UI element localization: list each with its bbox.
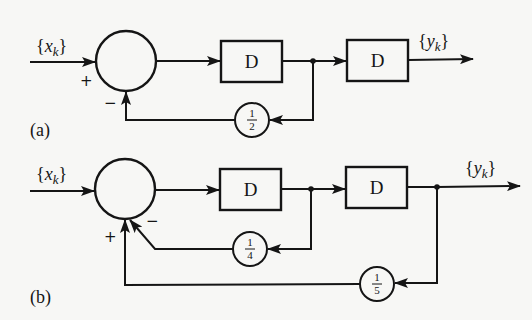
input-label-b: {xk} xyxy=(36,164,67,187)
summing-junction-a xyxy=(96,31,156,91)
part-label-a: (a) xyxy=(30,120,50,141)
delay-label-1-a: D xyxy=(245,51,259,72)
output-arrow-a xyxy=(408,59,473,60)
gain-denominator-2-b: 5 xyxy=(374,284,380,296)
delay-label-2-a: D xyxy=(371,50,385,71)
gain-denominator-1-b: 4 xyxy=(247,249,253,261)
plus-sign-a: + xyxy=(80,72,93,90)
outer-feedback-wire-to-gain-b xyxy=(395,187,437,283)
output-label-b: {yk} xyxy=(465,158,496,181)
minus-sign-a: − xyxy=(104,94,117,112)
output-label-a: {yk} xyxy=(418,31,449,54)
gain-numerator-2-b: 1 xyxy=(374,271,380,283)
system-a: {xk} + − D D {yk} 1 2 (a) xyxy=(30,31,473,141)
block-diagram: {xk} + − D D {yk} 1 2 (a) {xk} + − xyxy=(0,0,532,320)
inner-feedback-wire-to-gain-b xyxy=(268,189,311,249)
system-b: {xk} + − D D {yk} 1 4 1 5 (b) xyxy=(30,158,520,308)
gain-denominator-a: 2 xyxy=(249,120,255,132)
delay-label-1-b: D xyxy=(244,179,258,200)
feedback-wire-to-gain-a xyxy=(270,61,313,120)
feedback-wire-to-sum-a xyxy=(126,92,235,120)
input-label-a: {xk} xyxy=(36,36,67,59)
delay-label-2-b: D xyxy=(370,177,384,198)
part-label-b: (b) xyxy=(30,287,51,308)
plus-sign-b: + xyxy=(104,228,117,246)
summing-junction-b xyxy=(95,159,155,219)
output-arrow-b xyxy=(437,186,520,187)
gain-numerator-1-b: 1 xyxy=(247,236,253,248)
gain-numerator-a: 1 xyxy=(249,107,255,119)
minus-sign-b: − xyxy=(146,212,159,230)
